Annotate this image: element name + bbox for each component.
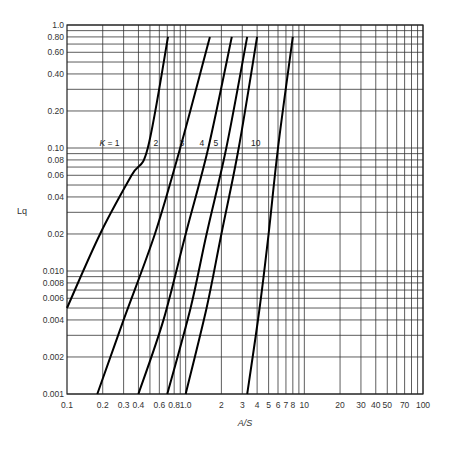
x-tick-label: 100 (416, 400, 430, 410)
x-tick-label: 2 (219, 400, 224, 410)
y-tick-label: 0.04 (47, 192, 64, 202)
x-tick-label: 40 (371, 400, 381, 410)
x-tick-label: 70 (400, 400, 410, 410)
plot-frame (67, 25, 423, 394)
y-tick-label: 0.010 (43, 266, 65, 276)
y-axis-ticks: 1.00.800.600.400.200.100.080.060.040.020… (43, 20, 65, 399)
y-tick-label: 1.0 (52, 20, 64, 30)
x-tick-label: 5 (266, 400, 271, 410)
x-tick-label: 0.2 (97, 400, 109, 410)
y-tick-label: 0.06 (47, 170, 64, 180)
x-tick-label: 4 (255, 400, 260, 410)
y-tick-label: 0.004 (43, 315, 65, 325)
x-tick-label: 8 (290, 400, 295, 410)
x-axis-ticks: 0.10.20.30.40.60.81.02345678102030405070… (61, 400, 430, 410)
x-tick-label: 30 (356, 400, 366, 410)
curve-label: 2 (153, 138, 158, 148)
curve-label: 10 (251, 138, 261, 148)
curve-label: 4 (200, 138, 205, 148)
curve-k1 (67, 37, 168, 308)
y-axis-title: Lq (17, 206, 27, 216)
curve-label: 3 (180, 138, 185, 148)
y-tick-label: 0.20 (47, 106, 64, 116)
y-tick-label: 0.006 (43, 293, 65, 303)
gridlines (67, 25, 423, 394)
curve-k2 (97, 37, 210, 394)
y-tick-label: 0.08 (47, 155, 64, 165)
x-tick-label: 0.4 (133, 400, 145, 410)
x-axis-title: A/S (237, 418, 253, 428)
y-tick-label: 0.40 (47, 69, 64, 79)
curve-label: 5 (214, 138, 219, 148)
y-tick-label: 0.002 (43, 352, 65, 362)
x-tick-label: 1.0 (180, 400, 192, 410)
x-tick-label: 0.3 (118, 400, 130, 410)
y-tick-label: 0.008 (43, 278, 65, 288)
curve-k4 (167, 37, 247, 394)
x-tick-label: 0.1 (61, 400, 73, 410)
y-tick-label: 0.60 (47, 47, 64, 57)
chart: K = 1234510 1.00.800.600.400.200.100.080… (0, 0, 451, 451)
x-tick-label: 10 (300, 400, 310, 410)
x-tick-label: 0.6 (153, 400, 165, 410)
x-tick-label: 0.8 (168, 400, 180, 410)
y-tick-label: 0.80 (47, 32, 64, 42)
x-tick-label: 6 (276, 400, 281, 410)
x-tick-label: 50 (383, 400, 393, 410)
y-tick-label: 0.02 (47, 229, 64, 239)
curve-k3 (138, 37, 231, 394)
curve-label: K = 1 (100, 138, 120, 148)
x-tick-label: 7 (284, 400, 289, 410)
y-tick-label: 0.10 (47, 143, 64, 153)
x-tick-label: 20 (335, 400, 345, 410)
y-tick-label: 0.001 (43, 389, 65, 399)
x-tick-label: 3 (240, 400, 245, 410)
